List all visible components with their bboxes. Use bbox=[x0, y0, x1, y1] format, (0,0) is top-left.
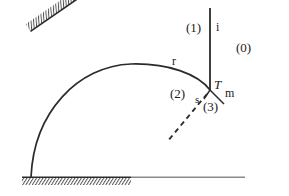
label-medium-m: m bbox=[225, 87, 234, 99]
optics-diagram: (1) i (0) r T m (2) s (3) bbox=[0, 0, 289, 196]
label-region-one: (1) bbox=[186, 21, 201, 34]
ground-surface bbox=[22, 177, 245, 185]
label-surface-s: s bbox=[195, 94, 199, 105]
label-region-two: (2) bbox=[170, 87, 185, 100]
label-transmitted-point: T bbox=[214, 78, 221, 91]
ground-hatching bbox=[22, 178, 131, 185]
incline-line bbox=[30, 0, 183, 31]
label-region-zero: (0) bbox=[236, 41, 251, 54]
inclined-surface bbox=[26, 0, 184, 31]
label-incident-ray: i bbox=[216, 21, 219, 33]
refracted-ray-dashed bbox=[167, 94, 207, 142]
label-reflected-ray: r bbox=[172, 55, 176, 67]
label-region-three: (3) bbox=[203, 100, 218, 113]
incline-hatching bbox=[26, 0, 184, 31]
wavefront-arc bbox=[31, 64, 210, 177]
diagram-canvas bbox=[0, 0, 289, 196]
